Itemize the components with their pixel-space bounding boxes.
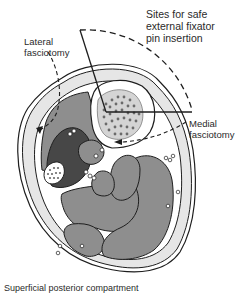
medial-label-line-1: Medial xyxy=(189,118,234,129)
figure-caption: Superficial posterior compartment xyxy=(4,283,139,294)
sites-label-line-2: external fixator xyxy=(146,20,215,32)
lateral-label-line-1: Lateral xyxy=(24,36,69,47)
lateral-fasciotomy-label: Lateral fasciotomy xyxy=(24,36,69,58)
lateral-label-line-2: fasciotomy xyxy=(24,47,69,58)
sites-label-line-3: pin insertion xyxy=(146,32,215,44)
sites-pin-insertion-label: Sites for safe external fixator pin inse… xyxy=(146,8,215,44)
medial-label-line-2: fasciotomy xyxy=(189,129,234,140)
tibia-bone xyxy=(91,80,155,148)
sites-label-line-1: Sites for safe xyxy=(146,8,215,20)
medial-fasciotomy-label: Medial fasciotomy xyxy=(189,118,234,140)
